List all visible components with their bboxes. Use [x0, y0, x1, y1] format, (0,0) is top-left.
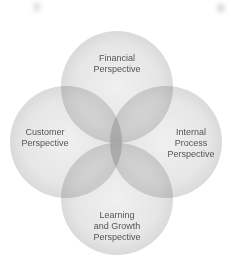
- label-line: Internal: [160, 127, 222, 138]
- scan-artifact: [33, 2, 41, 12]
- scan-artifact: [217, 3, 225, 13]
- label-line: and Growth: [82, 221, 152, 232]
- label-line: Perspective: [82, 232, 152, 243]
- label-line: Financial: [82, 53, 152, 64]
- label-line: Customer: [14, 127, 76, 138]
- label-line: Perspective: [14, 138, 76, 149]
- label-line: Perspective: [82, 64, 152, 75]
- label-line: Learning: [82, 210, 152, 221]
- label-financial: Financial Perspective: [82, 53, 152, 75]
- label-internal-process: Internal Process Perspective: [160, 127, 222, 160]
- label-customer: Customer Perspective: [14, 127, 76, 149]
- label-line: Process: [160, 138, 222, 149]
- label-line: Perspective: [160, 149, 222, 160]
- label-learning-growth: Learning and Growth Perspective: [82, 210, 152, 243]
